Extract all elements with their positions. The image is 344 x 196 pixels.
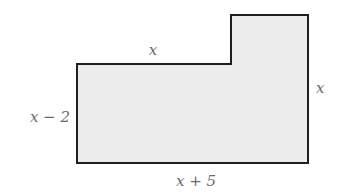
label-left-height: x − 2: [30, 108, 70, 126]
label-right-height: x: [316, 79, 325, 97]
label-top-width: x: [149, 41, 158, 59]
composite-shape: [77, 15, 308, 163]
l-shaped-figure-diagram: x x − 2 x x + 5: [0, 0, 344, 196]
label-bottom-width: x + 5: [176, 172, 216, 190]
